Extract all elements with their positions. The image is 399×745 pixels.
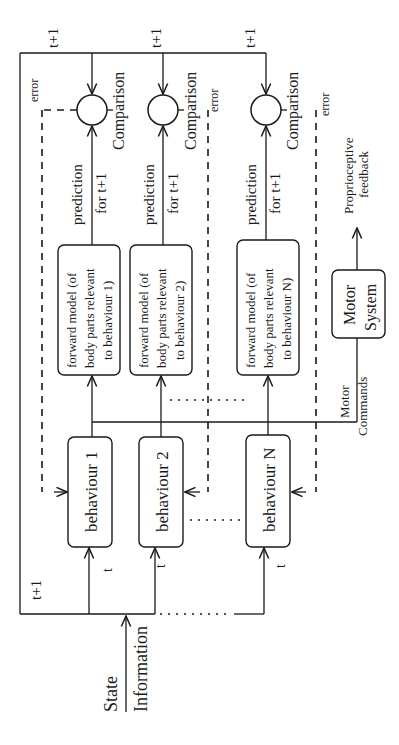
forward-model-text: forward model (of	[136, 272, 151, 368]
forward-model-text: body parts relevant	[261, 268, 276, 368]
prediction-label: prediction	[69, 164, 85, 225]
state-input-label: Information	[131, 626, 151, 712]
prediction-label: prediction	[243, 164, 259, 225]
comparison-label: Comparison	[110, 72, 128, 150]
forward-model-text: to behaviour 1)	[100, 281, 115, 360]
behaviour-label: behaviour 2	[153, 451, 172, 532]
forward-model-text: forward model (of	[64, 272, 79, 368]
prediction-label: prediction	[141, 164, 157, 225]
error-label: error	[207, 89, 221, 112]
forward-model-2: forward model (of body parts relevant to…	[130, 245, 192, 375]
comparison-node-2	[148, 95, 178, 125]
prediction-label: for t+1	[93, 173, 109, 214]
prediction-label: for t+1	[267, 173, 283, 214]
feedback-label: Proprioceptive	[341, 137, 356, 214]
forward-model-1: forward model (of body parts relevant to…	[58, 245, 120, 375]
t-plus-1-label: t+1	[28, 580, 44, 600]
behaviour-label: behaviour N	[260, 447, 279, 532]
t-plus-1-label: t+1	[242, 28, 258, 48]
motor-system-text: Motor	[341, 284, 358, 325]
motor-system-text: System	[362, 283, 380, 331]
forward-model-text: forward model (of	[243, 272, 258, 368]
feedback-label: feedback	[356, 151, 371, 198]
t-label: t	[100, 568, 115, 572]
forward-model-diagram: t+1 t+1 t+1 t+1 Comparison Comparison Co…	[0, 0, 399, 745]
behaviour-1: behaviour 1	[68, 437, 112, 547]
t-label: t	[273, 564, 288, 568]
comparison-node-n	[251, 95, 281, 125]
motor-system: Motor System	[332, 270, 385, 338]
t-plus-1-label: t+1	[45, 28, 61, 48]
forward-model-text: body parts relevant	[154, 268, 169, 368]
forward-model-text: to behaviour N)	[279, 278, 294, 360]
t-label: t	[153, 564, 168, 568]
behaviour-2: behaviour 2	[139, 437, 183, 547]
forward-model-text: body parts relevant	[82, 268, 97, 368]
comparison-node-1	[77, 95, 107, 125]
motor-commands-label: Commands	[355, 377, 370, 436]
t-plus-1-label: t+1	[148, 28, 164, 48]
forward-model-n: forward model (of body parts relevant to…	[237, 240, 299, 375]
behaviour-n: behaviour N	[246, 435, 290, 547]
behaviour-label: behaviour 1	[82, 451, 101, 532]
state-input-label: State	[101, 676, 121, 712]
comparison-label: Comparison	[284, 72, 302, 150]
error-label: error	[318, 93, 332, 116]
motor-commands-label: Motor	[337, 385, 352, 418]
prediction-label: for t+1	[165, 173, 181, 214]
comparison-label: Comparison	[182, 72, 200, 150]
forward-model-text: to behaviour 2)	[172, 281, 187, 360]
error-label: error	[27, 79, 41, 102]
